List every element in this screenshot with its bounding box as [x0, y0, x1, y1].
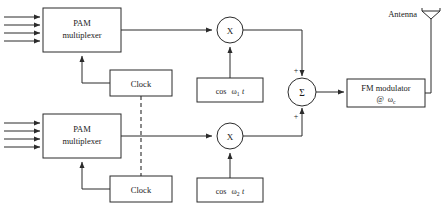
- upper-pam-multiplexer-label-line1: PAM: [73, 18, 91, 28]
- lower-clock-to-mux-wire: [82, 162, 110, 189]
- summer-glyph: Σ: [299, 88, 305, 98]
- lower-multiplier-glyph: X: [227, 132, 234, 142]
- upper-pam-multiplexer-label-line2: multiplexer: [62, 30, 101, 40]
- lower-osc-prefix: cos: [216, 187, 227, 196]
- fm-modulator-subscript: c: [393, 99, 396, 105]
- fm-modulator-label-line1: FM modulator: [361, 83, 411, 93]
- upper-mux-input-arrows: [4, 17, 40, 41]
- lower-mux-input-arrows: [4, 123, 40, 147]
- summer-bottom-sign: +: [294, 112, 299, 121]
- upper-oscillator-label: cos ω1t: [216, 87, 245, 97]
- diagram-canvas: PAM multiplexer Clock X cos ω1t + Σ FM m…: [0, 0, 442, 212]
- fm-modulator-at-symbol: @: [376, 95, 383, 104]
- lower-oscillator-label: cos ω2t: [216, 187, 245, 197]
- upper-multiplier-glyph: X: [227, 26, 234, 36]
- lower-pam-multiplexer-label-line1: PAM: [73, 124, 91, 134]
- upper-clock-to-mux-wire: [82, 56, 110, 83]
- upper-oscillator-box: [197, 78, 263, 102]
- modulator-to-antenna-wire: [425, 30, 431, 93]
- antenna-label: Antenna: [388, 9, 417, 19]
- upper-clock-label: Clock: [131, 79, 152, 89]
- lower-osc-subscript: 2: [237, 191, 240, 197]
- antenna-icon: [422, 8, 440, 30]
- block-diagram-figure: PAM multiplexer Clock X cos ω1t + Σ FM m…: [0, 0, 442, 212]
- lower-osc-time-var: t: [242, 187, 245, 196]
- lower-clock-label: Clock: [131, 185, 152, 195]
- lower-oscillator-box: [197, 178, 263, 202]
- upper-osc-time-var: t: [242, 87, 245, 96]
- fm-modulator-label-line2: @ ωc: [376, 95, 396, 105]
- upper-osc-prefix: cos: [216, 87, 227, 96]
- lower-pam-multiplexer-label-line2: multiplexer: [62, 136, 101, 146]
- summer-top-sign: +: [294, 66, 299, 75]
- upper-osc-subscript: 1: [237, 91, 240, 97]
